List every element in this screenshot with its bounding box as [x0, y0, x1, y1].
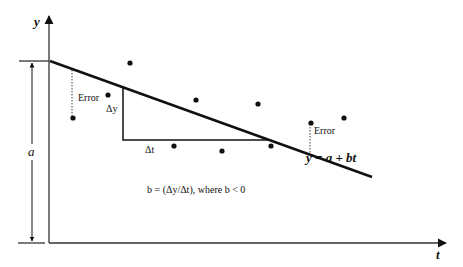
intercept-label: a — [28, 144, 35, 159]
data-point — [341, 115, 346, 120]
x-axis-label: t — [436, 247, 440, 262]
data-point — [308, 120, 313, 125]
regression-diagram: y t a Δy Δt ErrorError y = a + bt b = (Δ… — [0, 0, 463, 267]
error-label: Error — [314, 125, 336, 136]
delta-y-label: Δy — [106, 103, 117, 114]
error-label: Error — [78, 92, 100, 103]
data-point — [193, 97, 198, 102]
data-point — [219, 148, 224, 153]
data-point — [268, 143, 273, 148]
delta-t-label: Δt — [145, 144, 154, 155]
data-point — [255, 101, 260, 106]
slope-formula: b = (Δy/Δt), where b < 0 — [147, 184, 245, 196]
regression-equation: y = a + bt — [304, 150, 357, 165]
data-point — [127, 60, 132, 65]
data-point — [70, 115, 75, 120]
data-point — [171, 143, 176, 148]
data-point — [105, 92, 110, 97]
y-axis-label: y — [32, 14, 40, 29]
